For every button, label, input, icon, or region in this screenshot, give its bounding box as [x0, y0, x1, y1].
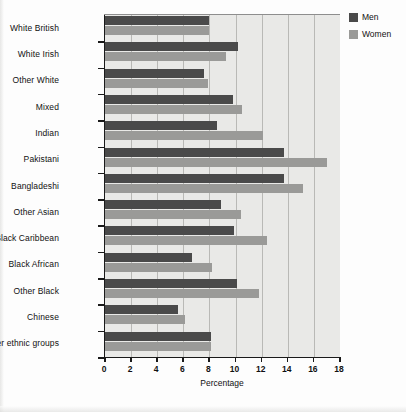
x-tick-label: 4	[146, 364, 166, 374]
legend-item-men[interactable]: Men	[349, 12, 391, 22]
category-tick	[98, 278, 104, 280]
bar-group	[105, 68, 340, 94]
bar-women[interactable]	[105, 236, 267, 245]
bar-group	[105, 173, 340, 199]
category-label: Mixed	[36, 102, 59, 112]
bar-group	[105, 41, 340, 67]
bar-group	[105, 15, 340, 41]
category-label: Other White	[13, 75, 59, 85]
bar-chart: White BritishWhite IrishOther WhiteMixed…	[0, 0, 406, 412]
category-tick	[98, 252, 104, 254]
bar-men[interactable]	[105, 279, 237, 288]
bar-group	[105, 331, 340, 357]
x-tick-label: 8	[198, 364, 218, 374]
bar-men[interactable]	[105, 200, 221, 209]
bar-men[interactable]	[105, 69, 204, 78]
bar-men[interactable]	[105, 226, 234, 235]
bar-men[interactable]	[105, 253, 192, 262]
category-label: Indian	[35, 128, 59, 138]
x-tick	[313, 357, 315, 362]
x-tick	[156, 357, 158, 362]
bar-group	[105, 94, 340, 120]
category-label: Black Caribbean	[0, 233, 59, 243]
bar-groups	[105, 15, 340, 357]
x-tick-label: 18	[329, 364, 349, 374]
bar-group	[105, 199, 340, 225]
x-tick	[208, 357, 210, 362]
bar-men[interactable]	[105, 121, 217, 130]
category-label: Other Black	[13, 286, 59, 296]
x-tick-label: 12	[251, 364, 271, 374]
bar-men[interactable]	[105, 305, 178, 314]
bar-women[interactable]	[105, 210, 241, 219]
bar-group	[105, 252, 340, 278]
bar-group	[105, 225, 340, 251]
bar-group	[105, 120, 340, 146]
bar-men[interactable]	[105, 95, 233, 104]
bar-women[interactable]	[105, 263, 212, 272]
bar-women[interactable]	[105, 79, 208, 88]
x-tick	[287, 357, 289, 362]
legend-item-women[interactable]: Women	[349, 29, 391, 39]
category-label: Other ethnic groups	[0, 338, 59, 348]
bar-group	[105, 304, 340, 330]
category-tick	[98, 147, 104, 149]
x-tick	[130, 357, 132, 362]
category-tick	[98, 68, 104, 70]
x-tick-label: 10	[225, 364, 245, 374]
bar-women[interactable]	[105, 52, 226, 61]
legend-label-women: Women	[362, 29, 391, 39]
bar-men[interactable]	[105, 42, 238, 51]
bar-women[interactable]	[105, 342, 211, 351]
x-tick-label: 16	[303, 364, 323, 374]
legend-swatch-women-icon	[349, 30, 358, 39]
legend: Men Women	[349, 12, 391, 46]
x-tick	[339, 357, 341, 362]
x-tick-label: 6	[172, 364, 192, 374]
bar-women[interactable]	[105, 184, 303, 193]
category-label: Other Asian	[13, 207, 59, 217]
x-tick-label: 14	[277, 364, 297, 374]
bar-women[interactable]	[105, 105, 242, 114]
bar-men[interactable]	[105, 174, 284, 183]
category-label: Black African	[9, 259, 59, 269]
category-tick	[98, 120, 104, 122]
x-tick	[261, 357, 263, 362]
category-label: White British	[10, 23, 59, 33]
bar-women[interactable]	[105, 315, 185, 324]
category-label: Pakistani	[24, 154, 59, 164]
x-tick	[104, 357, 106, 362]
category-tick	[98, 304, 104, 306]
category-tick	[98, 225, 104, 227]
category-tick	[98, 331, 104, 333]
x-tick	[235, 357, 237, 362]
x-tick-label: 0	[94, 364, 114, 374]
x-axis-title: Percentage	[104, 378, 340, 388]
x-tick	[182, 357, 184, 362]
legend-label-men: Men	[362, 12, 379, 22]
bar-group	[105, 278, 340, 304]
bar-women[interactable]	[105, 131, 263, 140]
category-label: Chinese	[27, 312, 59, 322]
category-tick	[98, 94, 104, 96]
page-edge-shadow-left	[0, 0, 4, 412]
category-label: Bangladeshi	[11, 181, 59, 191]
plot-area	[104, 15, 340, 358]
legend-swatch-men-icon	[349, 13, 358, 22]
bar-women[interactable]	[105, 158, 327, 167]
bar-women[interactable]	[105, 26, 209, 35]
category-label: White Irish	[18, 49, 59, 59]
page-edge-shadow-bottom	[0, 406, 406, 412]
category-tick	[98, 173, 104, 175]
bar-men[interactable]	[105, 148, 284, 157]
category-tick	[98, 41, 104, 43]
bar-group	[105, 147, 340, 173]
bar-men[interactable]	[105, 332, 211, 341]
x-tick-label: 2	[120, 364, 140, 374]
bar-women[interactable]	[105, 289, 259, 298]
bar-men[interactable]	[105, 16, 209, 25]
category-tick	[98, 199, 104, 201]
